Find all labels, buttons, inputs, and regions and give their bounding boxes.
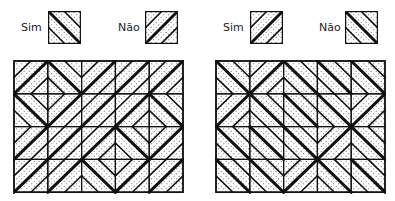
grid-tile (216, 159, 250, 192)
grid-tile (317, 61, 351, 94)
grid-tile (149, 94, 183, 127)
grid-tile (284, 159, 318, 192)
grid-tile (317, 159, 351, 192)
tile-grid-left (13, 60, 184, 194)
grid-tile (48, 61, 82, 94)
left-panel: Sim Não (0, 0, 197, 201)
grid-tile (284, 127, 318, 160)
grid-tile (115, 94, 149, 127)
legend-label-nao: Não (319, 21, 341, 34)
legend-label-nao: Não (118, 21, 140, 34)
grid-tile (284, 61, 318, 94)
tile-grid-right (215, 60, 386, 194)
grid-tile (317, 94, 351, 127)
grid-tile (351, 127, 385, 160)
legend-tile-nao (145, 11, 178, 44)
legend-tile-sim (48, 11, 81, 44)
grid-tile (48, 159, 82, 192)
grid-tile (250, 61, 284, 94)
grid-tile (48, 94, 82, 127)
grid-tile (216, 127, 250, 160)
grid-tile (216, 61, 250, 94)
legend-label-sim: Sim (223, 21, 244, 34)
grid-tile (149, 127, 183, 160)
grid-tile (14, 159, 48, 192)
grid-tile (82, 127, 116, 160)
grid-tile (250, 94, 284, 127)
grid-tile (115, 127, 149, 160)
grid-tile (216, 94, 250, 127)
grid-tile (149, 61, 183, 94)
grid-tile (14, 61, 48, 94)
legend-label-sim: Sim (21, 21, 42, 34)
grid-tile (14, 127, 48, 160)
grid-tile (351, 94, 385, 127)
grid-tile (115, 61, 149, 94)
grid-tile (284, 94, 318, 127)
grid-tile (351, 159, 385, 192)
right-panel: Sim Não (198, 0, 395, 201)
grid-tile (149, 159, 183, 192)
grid-tile (250, 127, 284, 160)
legend-tile-sim (250, 11, 283, 44)
grid-tile (82, 61, 116, 94)
grid-tile (351, 61, 385, 94)
grid-tile (48, 127, 82, 160)
grid-tile (14, 94, 48, 127)
grid-tile (82, 159, 116, 192)
grid-tile (82, 94, 116, 127)
legend-tile-nao (345, 11, 378, 44)
grid-tile (115, 159, 149, 192)
grid-tile (317, 127, 351, 160)
grid-tile (250, 159, 284, 192)
